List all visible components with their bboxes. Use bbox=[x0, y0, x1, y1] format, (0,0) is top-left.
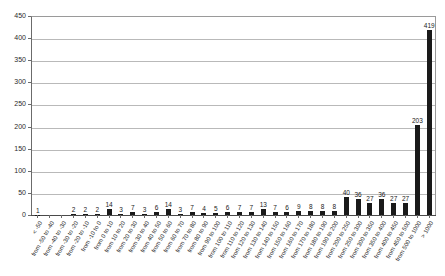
x-axis-tick-mark bbox=[405, 215, 406, 218]
bar-slot: 5 bbox=[210, 16, 222, 215]
x-axis-ticks bbox=[32, 215, 435, 218]
y-axis-tick-label: 400 bbox=[0, 34, 26, 41]
bar[interactable] bbox=[379, 199, 384, 215]
bar[interactable] bbox=[427, 30, 432, 215]
bar-slot: 3 bbox=[139, 16, 151, 215]
bar[interactable] bbox=[367, 203, 372, 215]
bar-slot: 27 bbox=[400, 16, 412, 215]
bar-slot: 8 bbox=[305, 16, 317, 215]
x-axis-tick-slot bbox=[139, 215, 151, 218]
x-axis-tick-mark bbox=[263, 215, 264, 218]
x-axis-tick-slot bbox=[162, 215, 174, 218]
bar-slot: 27 bbox=[388, 16, 400, 215]
x-axis-tick-slot bbox=[328, 215, 340, 218]
bar[interactable] bbox=[391, 203, 396, 215]
bar[interactable] bbox=[344, 197, 349, 215]
x-axis-tick-slot bbox=[103, 215, 115, 218]
x-axis-tick-mark bbox=[109, 215, 110, 218]
bar-value-label: 9 bbox=[297, 203, 301, 210]
x-axis-tick-slot bbox=[68, 215, 80, 218]
x-axis-tick-slot bbox=[44, 215, 56, 218]
x-axis-tick-mark bbox=[346, 215, 347, 218]
bar[interactable] bbox=[415, 125, 420, 215]
x-axis-tick-slot bbox=[245, 215, 257, 218]
bar-value-label: 419 bbox=[424, 22, 435, 29]
bar-value-label: 40 bbox=[343, 189, 350, 196]
x-axis-tick-slot bbox=[79, 215, 91, 218]
x-axis-tick-slot bbox=[388, 215, 400, 218]
x-axis-tick-mark bbox=[73, 215, 74, 218]
x-axis-tick-mark bbox=[286, 215, 287, 218]
x-axis-tick-slot bbox=[376, 215, 388, 218]
bar-slot: 4 bbox=[198, 16, 210, 215]
x-axis-tick-mark bbox=[144, 215, 145, 218]
bar-value-label: 1 bbox=[36, 207, 40, 214]
bar-slot: 40 bbox=[340, 16, 352, 215]
x-axis-tick-slot bbox=[198, 215, 210, 218]
bar-slot: 27 bbox=[364, 16, 376, 215]
x-axis-tick-mark bbox=[49, 215, 50, 218]
y-axis-tick-label: 200 bbox=[0, 123, 26, 130]
x-axis-tick-slot bbox=[234, 215, 246, 218]
bar-slot: 6 bbox=[222, 16, 234, 215]
x-axis-tick-slot bbox=[210, 215, 222, 218]
bar-slot: 8 bbox=[328, 16, 340, 215]
x-axis-tick-mark bbox=[192, 215, 193, 218]
bar-value-label: 14 bbox=[165, 201, 172, 208]
bar-value-label: 8 bbox=[333, 203, 337, 210]
x-axis-tick-mark bbox=[156, 215, 157, 218]
bar-value-label: 8 bbox=[309, 203, 313, 210]
bar-slot: 36 bbox=[352, 16, 364, 215]
bar-value-label: 2 bbox=[95, 206, 99, 213]
bar-value-label: 2 bbox=[84, 206, 88, 213]
bar-value-label: 27 bbox=[402, 195, 409, 202]
y-axis-tick-label: 250 bbox=[0, 100, 26, 107]
bar-slot: 6 bbox=[281, 16, 293, 215]
bar[interactable] bbox=[403, 203, 408, 215]
bar-value-label: 5 bbox=[214, 205, 218, 212]
bar-slot: 419 bbox=[423, 16, 435, 215]
x-axis-tick-mark bbox=[215, 215, 216, 218]
bar-slot bbox=[44, 16, 56, 215]
x-axis-tick-mark bbox=[85, 215, 86, 218]
bar-value-label: 7 bbox=[131, 204, 135, 211]
bar-slot: 7 bbox=[234, 16, 246, 215]
x-axis-tick-slot bbox=[32, 215, 44, 218]
x-axis-tick-slot bbox=[293, 215, 305, 218]
bar-slot: 7 bbox=[245, 16, 257, 215]
chart-container: 050100150200250300350400450 122214373614… bbox=[0, 0, 445, 276]
x-axis-tick-mark bbox=[227, 215, 228, 218]
x-axis-tick-mark bbox=[97, 215, 98, 218]
x-axis-tick-mark bbox=[120, 215, 121, 218]
x-axis-tick-slot bbox=[317, 215, 329, 218]
bar-value-label: 6 bbox=[285, 204, 289, 211]
y-axis-tick-label: 150 bbox=[0, 145, 26, 152]
bar-value-label: 7 bbox=[273, 204, 277, 211]
bar-value-label: 6 bbox=[226, 204, 230, 211]
bar[interactable] bbox=[356, 199, 361, 215]
x-axis-tick-mark bbox=[369, 215, 370, 218]
x-axis-tick-mark bbox=[393, 215, 394, 218]
x-axis-tick-slot bbox=[423, 215, 435, 218]
bar-slot: 6 bbox=[151, 16, 163, 215]
x-axis-tick-mark bbox=[275, 215, 276, 218]
x-axis-tick-slot bbox=[305, 215, 317, 218]
bar-slot: 36 bbox=[376, 16, 388, 215]
x-axis-tick-mark bbox=[203, 215, 204, 218]
x-axis-tick-slot bbox=[400, 215, 412, 218]
x-axis-tick-slot bbox=[186, 215, 198, 218]
y-axis-tick-label: 50 bbox=[0, 189, 26, 196]
x-axis-tick-mark bbox=[417, 215, 418, 218]
y-axis-tick-label: 350 bbox=[0, 56, 26, 63]
bar-slot: 2 bbox=[91, 16, 103, 215]
x-axis-labels: < -50from -50 to -40from -40 to -30from … bbox=[32, 219, 435, 276]
bar-slot: 14 bbox=[162, 16, 174, 215]
bar-value-label: 8 bbox=[321, 203, 325, 210]
bar-slot: 3 bbox=[115, 16, 127, 215]
bar-slot: 14 bbox=[103, 16, 115, 215]
x-axis-tick-slot bbox=[91, 215, 103, 218]
x-axis-tick-slot bbox=[269, 215, 281, 218]
x-axis-tick-mark bbox=[310, 215, 311, 218]
x-axis-tick-mark bbox=[132, 215, 133, 218]
bar-value-label: 3 bbox=[143, 206, 147, 213]
